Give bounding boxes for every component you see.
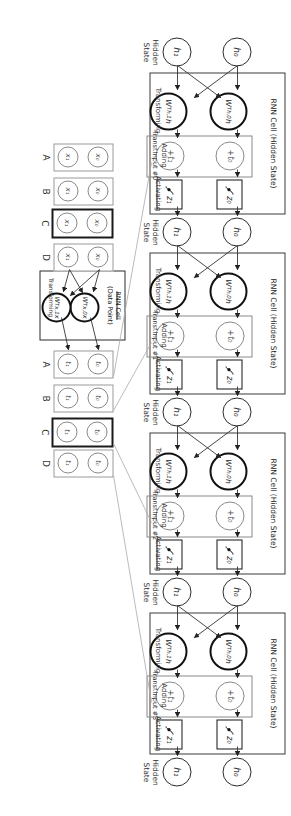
weight-node-x0: WTx,0x	[69, 292, 99, 322]
input-letter: D	[40, 244, 50, 270]
output-letter: A	[40, 351, 50, 377]
hidden-node-label: h₀	[232, 47, 242, 56]
hidden-node-h1: h₁	[162, 577, 191, 606]
rnn-cell-2: RNN Cell (Hidden State) WTh,0h WTh,1h +t…	[149, 432, 285, 574]
hidden-state-label: HiddenState	[141, 30, 159, 74]
t-output-D: t₀ t₁ D	[53, 449, 113, 477]
hidden-node-label: h₁	[172, 47, 182, 56]
activating-label: Activating	[153, 707, 161, 759]
weight-node-h0: WTh,0h	[209, 92, 247, 130]
add-node-t0: +t₀	[215, 321, 244, 350]
output-letter: B	[40, 385, 50, 411]
x1-node: x₁	[57, 246, 78, 267]
struck-title: RNN Cell	[113, 291, 121, 319]
weight-node-h0: WTh,0h	[209, 632, 247, 670]
output-letter: C	[39, 419, 49, 445]
rnn-diagram-canvas: h₀ h₁ HiddenState h₀ h₁ HiddenState h₀ h…	[0, 0, 291, 816]
t0-node: t₀	[87, 353, 108, 374]
cell-title: RNN Cell (Hidden State)	[268, 73, 277, 213]
rnn-cell-3: RNN Cell (Hidden State) WTh,0h WTh,1h +t…	[149, 612, 285, 754]
hidden-state-group-0: h₀ h₁ HiddenState	[0, 37, 291, 67]
hidden-node-h0: h₀	[222, 577, 251, 606]
x0-node: x₀	[87, 180, 108, 201]
x-input-D: x₀ x₁ D	[53, 243, 113, 271]
t-output-B: t₀ t₁ B	[53, 384, 113, 412]
x1-node: x₁	[57, 146, 78, 167]
activating-label: Activating	[153, 347, 161, 399]
hidden-node-h0: h₀	[222, 37, 251, 66]
activation-node-z0: z₀	[216, 719, 242, 749]
weight-node-h0: WTh,0h	[209, 452, 247, 490]
x0-node: x₀	[87, 246, 108, 267]
activation-curve-icon	[164, 365, 174, 375]
input-letter: A	[40, 144, 50, 170]
cell-title: RNN Cell (Hidden State)	[268, 253, 277, 393]
activation-curve-icon	[224, 365, 234, 375]
hidden-state-group-3: h₀ h₁ HiddenState	[0, 577, 291, 607]
hidden-node-h0: h₀	[222, 397, 251, 426]
activation-curve-icon	[224, 185, 234, 195]
x1-node: x₁	[56, 212, 77, 233]
hidden-node-h1: h₁	[162, 217, 191, 246]
x0-node: x₀	[87, 146, 108, 167]
transforming-label: Transforming	[47, 272, 54, 322]
activation-curve-icon	[164, 185, 174, 195]
t-output-A: t₀ t₁ A	[53, 350, 113, 378]
t0-node: t₀	[87, 452, 108, 473]
input-letter: C	[39, 210, 49, 236]
activation-curve-icon	[224, 545, 234, 555]
hidden-node-h1: h₁	[162, 37, 191, 66]
t1-node: t₁	[57, 452, 78, 473]
activating-label: Activating	[153, 167, 161, 219]
t1-node: t₁	[57, 353, 78, 374]
x-input-A: x₀ x₁ A	[53, 143, 113, 171]
rnn-diagram-screen: h₀ h₁ HiddenState h₀ h₁ HiddenState h₀ h…	[0, 0, 291, 816]
activation-node-z0: z₀	[216, 359, 242, 389]
hidden-node-h0: h₀	[222, 217, 251, 246]
data-cell-title: RNN Cell (Data Point)	[104, 271, 121, 339]
x-input-C: x₀ x₁ C	[51, 208, 113, 238]
rnn-cell-0: RNN Cell (Hidden State) WTh,0h WTh,1h +t…	[149, 72, 285, 214]
hidden-state-group-4: h₀ h₁ HiddenState	[0, 757, 291, 787]
weight-node-h0: WTh,0h	[209, 272, 247, 310]
add-node-t0: +t₀	[215, 501, 244, 530]
input-letter: B	[40, 178, 50, 204]
t1-node: t₁	[57, 387, 78, 408]
hidden-node-h0: h₀	[222, 757, 251, 786]
cell-title: RNN Cell (Hidden State)	[268, 613, 277, 753]
rnn-cell-1: RNN Cell (Hidden State) WTh,0h WTh,1h +t…	[149, 252, 285, 394]
hidden-node-h1: h₁	[162, 757, 191, 786]
x0-node: x₀	[86, 212, 107, 233]
t-output-C: t₀ t₁ C	[51, 417, 113, 447]
data-point-cell: RNN Cell (Data Point) WTx,0x WTx,1x Tran…	[39, 270, 125, 340]
t0-node: t₀	[86, 421, 107, 442]
x1-node: x₁	[57, 180, 78, 201]
hidden-node-h1: h₁	[162, 397, 191, 426]
output-letter: D	[40, 450, 50, 476]
activation-curve-icon	[164, 545, 174, 555]
weight-node-x1: WTx,1x	[41, 292, 71, 322]
activation-curve-icon	[224, 725, 234, 735]
activation-curve-icon	[164, 725, 174, 735]
x-input-B: x₀ x₁ B	[53, 177, 113, 205]
t0-node: t₀	[87, 387, 108, 408]
add-node-t0: +t₀	[215, 141, 244, 170]
activation-node-z0: z₀	[216, 179, 242, 209]
activation-node-z0: z₀	[216, 539, 242, 569]
t1-node: t₁	[56, 421, 77, 442]
add-node-t0: +t₀	[215, 681, 244, 710]
activating-label: Activating	[153, 527, 161, 579]
cell-title: RNN Cell (Hidden State)	[268, 433, 277, 573]
